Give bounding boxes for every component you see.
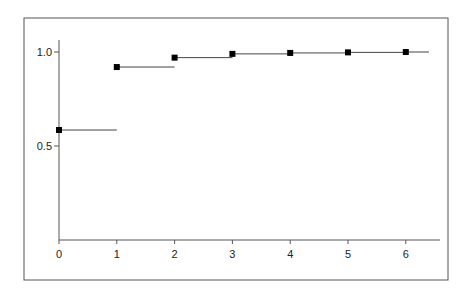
x-tick-label: 2 [172, 248, 178, 260]
x-ticks: 0123456 [56, 240, 409, 260]
x-tick-label: 1 [114, 248, 120, 260]
step-series [56, 49, 429, 133]
y-tick-label: 0.5 [37, 140, 52, 152]
y-tick-label: 1.0 [37, 46, 52, 58]
data-point-marker [287, 50, 293, 56]
data-point-marker [345, 49, 351, 55]
data-point-marker [403, 49, 409, 55]
data-point-marker [114, 64, 120, 70]
chart: 0.51.0 0123456 [0, 0, 471, 299]
x-tick-label: 0 [56, 248, 62, 260]
data-point-marker [172, 55, 178, 61]
y-ticks: 0.51.0 [37, 46, 59, 152]
x-tick-label: 3 [229, 248, 235, 260]
x-tick-label: 5 [345, 248, 351, 260]
x-tick-label: 6 [403, 248, 409, 260]
chart-frame [24, 18, 448, 280]
data-point-marker [229, 51, 235, 57]
data-point-marker [56, 127, 62, 133]
x-tick-label: 4 [287, 248, 293, 260]
